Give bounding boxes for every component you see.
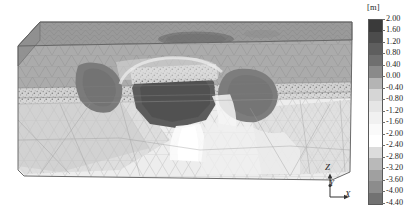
colorbar-tick-line: [382, 203, 385, 204]
colorbar-strip: [368, 19, 383, 205]
colorbar-tick-line: [382, 65, 385, 66]
model-front-face: [10, 38, 362, 186]
model-viewport[interactable]: [0, 0, 362, 213]
colorbar-tick-text: 2.00: [386, 14, 400, 22]
colorbar-tick-text: -0.80: [386, 95, 403, 103]
colorbar-band: [369, 181, 382, 193]
colorbar-tick-text: -1.20: [386, 106, 403, 114]
colorbar-tick-text: -2.80: [386, 152, 403, 160]
colorbar-band: [369, 193, 382, 205]
colorbar-tick-text: 1.20: [386, 37, 400, 45]
axis-triad-icon: [316, 163, 362, 209]
colorbar-tick-text: -2.00: [386, 129, 403, 137]
colorbar-tick-text: -4.40: [386, 198, 403, 206]
colorbar-tick-line: [382, 134, 385, 135]
colorbar-tick-text: -3.20: [386, 164, 403, 172]
colorbar-band: [369, 20, 382, 32]
colorbar-tick-line: [382, 53, 385, 54]
colorbar-band: [369, 170, 382, 182]
colorbar-tick-line: [382, 19, 385, 20]
colorbar-tick-text: -0.40: [386, 83, 403, 91]
colorbar-band: [369, 135, 382, 147]
fem-mesh-render: [0, 0, 362, 213]
colorbar-band: [369, 124, 382, 136]
colorbar-tick-line: [382, 180, 385, 181]
colorbar-tick-line: [382, 42, 385, 43]
colorbar-tick-line: [382, 191, 385, 192]
colorbar-tick-line: [382, 157, 385, 158]
colorbar-tick-text: -2.40: [386, 141, 403, 149]
colorbar-tick-text: 0.40: [386, 60, 400, 68]
colorbar-band: [369, 55, 382, 67]
colorbar-tick-line: [382, 111, 385, 112]
colorbar-tick-text: 0.80: [386, 49, 400, 57]
colorbar-band: [369, 32, 382, 44]
colorbar-tick-text: 0.00: [386, 72, 400, 80]
axis-label-x: X: [345, 190, 351, 199]
colorbar-tick-text: 1.60: [386, 26, 400, 34]
colorbar-tick-line: [382, 88, 385, 89]
colorbar-band: [369, 66, 382, 78]
colorbar-band: [369, 101, 382, 113]
colorbar-tick-text: -4.00: [386, 187, 403, 195]
colorbar-band: [369, 158, 382, 170]
colorbar-unit-label: [m]: [367, 3, 380, 12]
colorbar-tick-line: [382, 145, 385, 146]
axis-label-z: Z: [325, 163, 330, 172]
colorbar-band: [369, 112, 382, 124]
colorbar-tick-line: [382, 30, 385, 31]
colorbar-tick-line: [382, 76, 385, 77]
colorbar-tick-line: [382, 168, 385, 169]
colorbar-tick-text: -3.60: [386, 175, 403, 183]
axis-triad: Z Y X: [316, 163, 362, 209]
colorbar-band: [369, 147, 382, 159]
colorbar-tick-text: -1.60: [386, 118, 403, 126]
colorbar-band: [369, 89, 382, 101]
colorbar-tick-labels: 2.001.601.200.800.400.00-0.40-0.80-1.20-…: [382, 19, 410, 203]
colorbar-tick-line: [382, 99, 385, 100]
colorbar-legend: [m] 2.001.601.200.800.400.00-0.40-0.80-1…: [362, 0, 410, 213]
colorbar-band: [369, 78, 382, 90]
figure-root: Z Y X [m] 2.001.601.200.800.400.00-0.40-…: [0, 0, 410, 213]
colorbar-band: [369, 43, 382, 55]
colorbar-tick-line: [382, 122, 385, 123]
axis-label-y: Y: [329, 179, 334, 188]
